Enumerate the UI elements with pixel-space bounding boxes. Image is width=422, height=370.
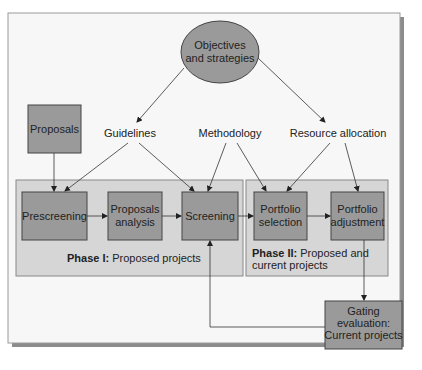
phase1-title-bold: Phase I:	[67, 252, 109, 264]
portfolio-process-diagram: Objectives and strategies Proposals Guid…	[0, 0, 422, 370]
portfolio-selection-label-1: Portfolio	[260, 203, 300, 215]
proposals-analysis-label-1: Proposals	[111, 203, 160, 215]
phase2-title-rest: Proposed and	[300, 247, 369, 259]
gating-label-2: evaluation:	[337, 317, 390, 329]
screening-label: Screening	[185, 210, 235, 222]
guidelines-label: Guidelines	[104, 127, 156, 139]
portfolio-selection-label-2: selection	[259, 216, 302, 228]
phase1-title-rest: Proposed projects	[112, 252, 201, 264]
portfolio-adjustment-label-1: Portfolio	[337, 203, 377, 215]
phase2-title-bold: Phase II:	[252, 247, 297, 259]
gating-label-3: Current projects	[324, 329, 403, 341]
methodology-label: Methodology	[199, 127, 262, 139]
portfolio-adjustment-label-2: adjustment	[331, 216, 385, 228]
objectives-label-1: Objectives	[194, 39, 246, 51]
phase2-title-line2: current projects	[252, 259, 328, 271]
phase2-title: Phase II:Proposed and	[252, 247, 369, 259]
proposals-analysis-label-2: analysis	[115, 216, 155, 228]
prescreening-label: Prescreening	[22, 210, 87, 222]
phase1-title: Phase I:Proposed projects	[67, 252, 201, 264]
proposals-label: Proposals	[30, 123, 79, 135]
gating-label-1: Gating	[347, 305, 379, 317]
resource-allocation-label: Resource allocation	[290, 127, 387, 139]
objectives-label-2: and strategies	[185, 52, 255, 64]
